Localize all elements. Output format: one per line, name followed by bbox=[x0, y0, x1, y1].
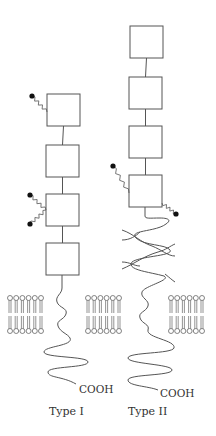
lipid-head bbox=[117, 296, 122, 301]
lipid-head bbox=[104, 329, 109, 334]
lipid-head bbox=[32, 329, 37, 334]
lipid-head bbox=[104, 296, 109, 301]
lipid-head bbox=[26, 329, 31, 334]
ig-domain bbox=[130, 26, 163, 58]
lipid-head bbox=[20, 296, 25, 301]
lipid-head bbox=[187, 296, 192, 301]
lipid-head bbox=[193, 296, 198, 301]
lipid bbox=[110, 296, 115, 334]
lipid-head bbox=[86, 296, 91, 301]
lipid-head bbox=[193, 329, 198, 334]
lipid bbox=[39, 296, 44, 334]
ig-domain bbox=[46, 145, 79, 177]
lipid-head bbox=[169, 296, 174, 301]
lipid bbox=[193, 296, 198, 334]
membrane-segment bbox=[86, 296, 122, 334]
lipid-head bbox=[92, 296, 97, 301]
lipid-head bbox=[181, 296, 186, 301]
lipid-head bbox=[8, 296, 13, 301]
lipid bbox=[187, 296, 192, 334]
glycan-chain bbox=[162, 203, 176, 214]
lipid-head bbox=[110, 296, 115, 301]
coiled-coil-strand bbox=[165, 274, 175, 282]
lipid-bilayer bbox=[8, 296, 205, 334]
ig-domain bbox=[129, 175, 162, 207]
glycan-dot bbox=[27, 192, 32, 197]
lipid-head bbox=[117, 329, 122, 334]
lipid-head bbox=[98, 296, 103, 301]
ig-domain bbox=[129, 77, 162, 109]
linker bbox=[63, 126, 64, 145]
lipid-head bbox=[39, 296, 44, 301]
transmembrane-chain bbox=[128, 292, 174, 390]
lipid-head bbox=[110, 329, 115, 334]
lipid-head bbox=[175, 296, 180, 301]
coiled-coil-strand bbox=[122, 244, 175, 269]
lipid-head bbox=[32, 296, 37, 301]
glycan-chain bbox=[32, 96, 47, 112]
glycan-chain bbox=[113, 166, 129, 193]
lipid-head bbox=[200, 329, 205, 334]
lipid-head bbox=[181, 329, 186, 334]
lipid bbox=[175, 296, 180, 334]
lipid-head bbox=[86, 329, 91, 334]
lipid bbox=[14, 296, 19, 334]
lipid-head bbox=[200, 296, 205, 301]
glycan-chain bbox=[30, 195, 46, 210]
type-1-protein bbox=[27, 93, 88, 384]
lipid-head bbox=[14, 329, 19, 334]
ig-domain bbox=[47, 94, 80, 126]
glycan-dot bbox=[27, 221, 32, 226]
lipid-head bbox=[8, 329, 13, 334]
membrane-segment bbox=[8, 296, 44, 334]
type-2-label: Type II bbox=[128, 405, 167, 418]
lipid-head bbox=[39, 329, 44, 334]
type-2-protein bbox=[110, 26, 178, 390]
lipid-head bbox=[20, 329, 25, 334]
lipid-head bbox=[187, 329, 192, 334]
membrane-protein-diagram: COOH COOH Type I Type II bbox=[0, 0, 216, 436]
lipid bbox=[92, 296, 97, 334]
lipid-head bbox=[98, 329, 103, 334]
glycan-dot bbox=[173, 211, 178, 216]
lipid-head bbox=[169, 329, 174, 334]
ig-domain bbox=[46, 194, 79, 226]
lipid bbox=[32, 296, 37, 334]
type-1-c-terminus-label: COOH bbox=[79, 383, 113, 395]
membrane-segment bbox=[169, 296, 205, 334]
lipid-head bbox=[175, 329, 180, 334]
lipid bbox=[169, 296, 174, 334]
lipid bbox=[200, 296, 205, 334]
transmembrane-chain bbox=[44, 275, 88, 384]
lipid bbox=[26, 296, 31, 334]
ig-domain bbox=[129, 126, 162, 158]
lipid bbox=[181, 296, 186, 334]
lipid-head bbox=[14, 296, 19, 301]
type-2-c-terminus-label: COOH bbox=[160, 387, 194, 399]
glycan-dot bbox=[29, 93, 34, 98]
type-1-label: Type I bbox=[49, 405, 84, 418]
lipid bbox=[98, 296, 103, 334]
lipid-head bbox=[92, 329, 97, 334]
glycan-dot bbox=[110, 163, 115, 168]
lipid bbox=[8, 296, 13, 334]
linker bbox=[146, 58, 147, 77]
lipid bbox=[20, 296, 25, 334]
lipid bbox=[86, 296, 91, 334]
glycan-chain bbox=[30, 210, 46, 224]
lipid bbox=[104, 296, 109, 334]
lipid bbox=[117, 296, 122, 334]
ig-domain bbox=[46, 243, 79, 275]
lipid-head bbox=[26, 296, 31, 301]
